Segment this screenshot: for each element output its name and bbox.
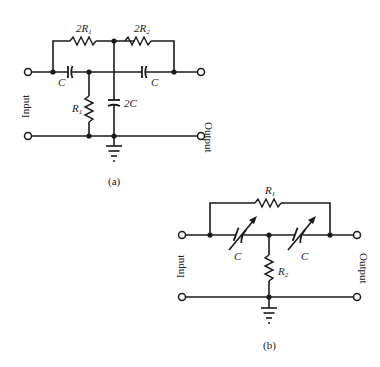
caption-b: (b) — [263, 339, 276, 352]
output-terminal-bottom-b — [354, 294, 361, 301]
input-terminal-bottom-a — [25, 133, 32, 140]
caption-a: (a) — [108, 175, 121, 188]
label-c-left-b: C — [234, 250, 242, 262]
shunt-resistor-r2-b — [265, 235, 273, 297]
label-r1-shunt-a: R1 — [71, 102, 82, 116]
input-terminal-bottom-b — [179, 294, 186, 301]
input-terminal-top-a — [25, 69, 32, 76]
label-c-left-a: C — [58, 76, 66, 88]
input-label-a: Input — [19, 95, 31, 118]
label-r2-b: R2 — [277, 265, 289, 279]
shunt-resistor-r1-a — [85, 72, 93, 136]
shunt-capacitor-2c-a — [108, 41, 120, 136]
label-2r1-a: 2R1 — [76, 22, 92, 36]
junction-right-b — [327, 232, 332, 237]
output-terminal-top-a — [198, 69, 205, 76]
output-label-b: Output — [358, 253, 370, 284]
junction-left-b — [207, 232, 212, 237]
output-terminal-top-b — [354, 232, 361, 239]
input-label-b: Input — [174, 255, 186, 278]
junction-right-a — [171, 69, 176, 74]
label-r1-b: R1 — [264, 184, 275, 198]
diagram-b-bridged-t: R1 C C R2 Input Output (b) — [174, 184, 370, 352]
junction-left-a — [50, 69, 55, 74]
label-c-right-b: C — [301, 250, 309, 262]
ground-icon-a — [106, 136, 122, 161]
variable-capacitor-left-b — [229, 216, 257, 250]
label-2r2-a: 2R2 — [134, 22, 150, 36]
bridge-resistor-r1-b — [210, 199, 330, 235]
resistor-2r1-a — [70, 37, 96, 45]
ground-icon-b — [261, 297, 277, 323]
label-2c-a: 2C — [124, 97, 138, 109]
output-label-a: Output — [203, 122, 215, 153]
variable-capacitor-right-b — [288, 216, 316, 250]
input-terminal-top-b — [179, 232, 186, 239]
diagram-a-twin-t: 2R1 2R2 C C R1 2C Input Output (a) — [19, 22, 215, 188]
label-c-right-a: C — [151, 76, 159, 88]
